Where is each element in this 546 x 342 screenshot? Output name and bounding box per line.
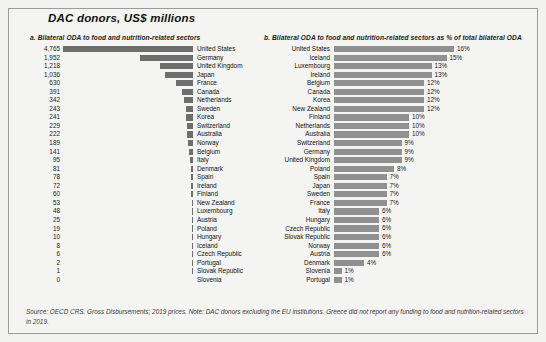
panel-a-bar-row: 8Iceland: [18, 242, 258, 251]
panel-b-bar: [334, 243, 379, 249]
panel-a-bar: [190, 157, 193, 163]
panel-b-bar-row: Ireland13%: [264, 71, 526, 80]
panel-b-value-label: 9%: [402, 148, 414, 157]
panel-b-bar-track: 16%: [334, 45, 482, 54]
panel-b-bar-row: France7%: [264, 199, 526, 208]
panel-b-value-label: 6%: [379, 233, 391, 242]
panel-a-category-label: Korea: [193, 113, 214, 122]
panel-a-bar-track: [63, 45, 193, 54]
panel-b-bar: [334, 277, 342, 283]
panel-a-value-label: 243: [18, 105, 63, 114]
panel-a-bar-row: 10Hungary: [18, 233, 258, 242]
panel-b-value-label: 7%: [387, 173, 399, 182]
panel-a-bar-row: 391Canada: [18, 88, 258, 97]
panel-b-bar: [334, 140, 402, 146]
panel-b-bar-track: 12%: [334, 79, 482, 88]
panel-b-category-label: Czech Republic: [264, 225, 334, 234]
panel-b-bar-row: New Zealand12%: [264, 105, 526, 114]
panel-a-bar-row: 19Poland: [18, 224, 258, 233]
panel-a-value-label: 189: [18, 139, 63, 148]
panel-a-category-label: Australia: [193, 130, 222, 139]
panel-a-value-label: 95: [18, 156, 63, 165]
panel-a-bar-track: [63, 199, 193, 208]
panel-b-bar-row: Hungary6%: [264, 216, 526, 225]
panel-b-category-label: Australia: [264, 130, 334, 139]
panel-a-bar: [192, 268, 193, 274]
panel-a-bar-track: [63, 54, 193, 63]
panel-b-bar: [334, 268, 342, 274]
panel-b-bar: [334, 166, 394, 172]
panel-b-bar-track: 6%: [334, 224, 482, 233]
panel-b-bar-row: Luxembourg13%: [264, 62, 526, 71]
panel-a-category-label: Japan: [193, 71, 214, 80]
panel-a-value-label: 391: [18, 88, 63, 97]
panel-b-bar-row: Slovenia1%: [264, 267, 526, 276]
panel-b-bar-track: 7%: [334, 190, 482, 199]
panel-a-value-label: 0: [18, 276, 63, 285]
panel-b-category-label: Germany: [264, 148, 334, 157]
panel-b-bar-row: Sweden7%: [264, 190, 526, 199]
panel-a-bar: [192, 234, 193, 240]
panel-a-value-label: 25: [18, 216, 63, 225]
panel-a-value-label: 342: [18, 96, 63, 105]
panel-a-value-label: 10: [18, 233, 63, 242]
panel-a-value-label: 53: [18, 199, 63, 208]
panel-b-bar: [334, 106, 424, 112]
panel-a-category-label: Sweden: [193, 105, 220, 114]
panel-b-bar: [334, 123, 409, 129]
panel-b-bar-row: Poland8%: [264, 165, 526, 174]
panel-b-value-label: 12%: [424, 79, 440, 88]
panel-b-value-label: 7%: [387, 182, 399, 191]
panel-b-value-label: 1%: [342, 276, 354, 285]
panel-a-bar: [192, 243, 193, 249]
panel-a-bar-track: [63, 79, 193, 88]
panel-a-bar-row: 6Czech Republic: [18, 250, 258, 259]
panel-a-bar: [184, 97, 193, 103]
panel-b-bar-row: Japan7%: [264, 182, 526, 191]
panel-b-bar: [334, 97, 424, 103]
panel-a-value-label: 4,765: [18, 45, 63, 54]
panel-a-bar: [192, 225, 193, 231]
panel-a-bar-row: 78Spain: [18, 173, 258, 182]
panel-a-bar: [191, 166, 193, 172]
panel-a-bar-track: [63, 207, 193, 216]
panel-a-bar-track: [63, 96, 193, 105]
panel-a-category-label: United States: [193, 45, 235, 54]
panel-a-bar-track: [63, 250, 193, 259]
panel-a-value-label: 229: [18, 122, 63, 131]
panel-b-category-label: Ireland: [264, 71, 334, 80]
panel-a-bar: [186, 114, 193, 120]
panel-a-bar: [191, 191, 193, 197]
panel-a-bar-row: 1,952Germany: [18, 54, 258, 63]
panel-b-bar-row: Austria6%: [264, 250, 526, 259]
panel-b-bar: [334, 149, 402, 155]
panel-b-category-label: Netherlands: [264, 122, 334, 131]
panel-b-value-label: 15%: [447, 54, 463, 63]
panel-a-rows: 4,765United States1,952Germany1,218Unite…: [18, 45, 258, 284]
panel-b-bar-row: United Kingdom9%: [264, 156, 526, 165]
panel-a-category-label: Belgium: [193, 148, 220, 157]
panel-a-bar: [191, 174, 193, 180]
panel-a-bar-row: 81Denmark: [18, 165, 258, 174]
panel-b-value-label: 6%: [379, 250, 391, 259]
panel-a-category-label: Hungary: [193, 233, 221, 242]
panel-a-bar-row: 229Switzerland: [18, 122, 258, 131]
panel-a-value-label: 8: [18, 242, 63, 251]
panel-b-bar-track: 6%: [334, 207, 482, 216]
panel-b-category-label: Portugal: [264, 276, 334, 285]
panel-a-bar-track: [63, 62, 193, 71]
panel-b-bar-track: 10%: [334, 113, 482, 122]
panel-a-bar: [176, 80, 193, 86]
panel-a-value-label: 60: [18, 190, 63, 199]
panel-a-bar-row: 60Finland: [18, 190, 258, 199]
panel-b-bar: [334, 260, 364, 266]
panel-a-bar: [140, 55, 193, 61]
panel-b-bar-track: 9%: [334, 139, 482, 148]
panel-b-value-label: 9%: [402, 139, 414, 148]
panel-b-bar: [334, 251, 379, 257]
panel-a-bar-row: 342Netherlands: [18, 96, 258, 105]
panel-b-category-label: Korea: [264, 96, 334, 105]
panel-b-value-label: 4%: [364, 259, 376, 268]
panel-b-bar-row: Korea12%: [264, 96, 526, 105]
panel-b-bar-track: 12%: [334, 96, 482, 105]
